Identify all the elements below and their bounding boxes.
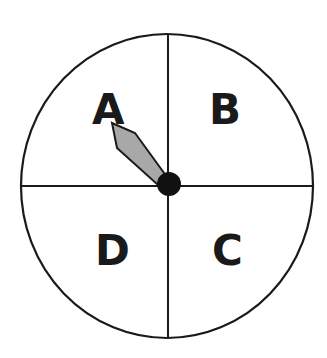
section-label-c: C	[212, 226, 243, 275]
section-label-d: D	[95, 226, 130, 275]
section-label-b: B	[209, 85, 241, 134]
spinner-diagram: A B C D	[0, 0, 327, 358]
pointer-arrow-icon	[112, 123, 167, 185]
spinner-hub	[157, 172, 181, 196]
